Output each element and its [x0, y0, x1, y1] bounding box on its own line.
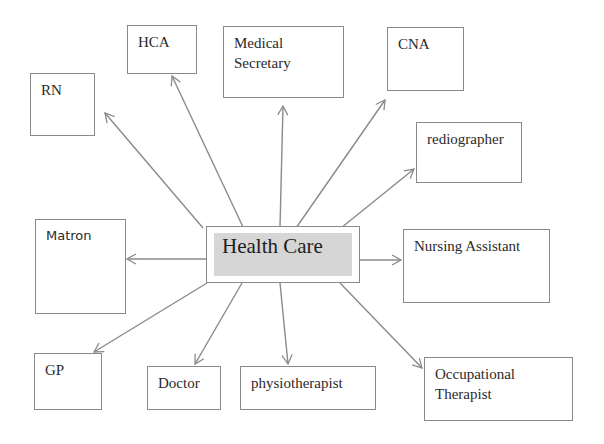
node-hca: HCA	[127, 25, 197, 74]
arrow-to-physiotherapist	[280, 283, 288, 364]
arrow-to-rediographer	[341, 169, 414, 228]
node-nursing-assistant: Nursing Assistant	[403, 229, 550, 303]
node-rediographer: rediographer	[416, 122, 522, 183]
arrow-to-cna	[296, 100, 385, 228]
node-label: physiotherapist	[251, 373, 343, 393]
node-label: RN	[41, 80, 62, 100]
node-label: Nursing Assistant	[414, 236, 520, 256]
node-label: CNA	[398, 34, 430, 54]
node-cna: CNA	[387, 27, 464, 91]
arrow-to-doctor	[195, 283, 242, 364]
node-label: Medical Secretary	[234, 33, 291, 73]
node-occupational-therapist: Occupational Therapist	[424, 357, 573, 421]
node-label: Occupational Therapist	[435, 364, 515, 404]
node-doctor: Doctor	[147, 366, 221, 410]
node-medical-secretary: Medical Secretary	[223, 26, 344, 98]
center-node-health-care: Health Care	[206, 226, 360, 283]
health-care-diagram: Health Care RN HCA Medical Secretary CNA…	[0, 0, 604, 444]
node-label: Matron	[46, 226, 92, 246]
node-rn: RN	[30, 73, 95, 136]
node-matron: Matron	[35, 219, 126, 314]
node-physiotherapist: physiotherapist	[240, 366, 376, 410]
arrow-to-rn	[105, 113, 203, 228]
center-node-label: Health Care	[222, 234, 323, 259]
arrow-to-medical-secretary	[280, 106, 283, 227]
node-label: Doctor	[158, 373, 200, 393]
node-label: rediographer	[427, 129, 504, 149]
node-label: HCA	[138, 32, 170, 52]
node-gp: GP	[34, 353, 102, 410]
node-label: GP	[45, 360, 64, 380]
